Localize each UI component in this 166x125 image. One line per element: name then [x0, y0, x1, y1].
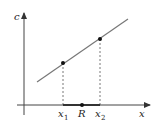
- svg-text:1: 1: [64, 114, 68, 122]
- point-x2: [98, 37, 102, 41]
- x-axis-label: x: [139, 108, 145, 119]
- label-r: R: [77, 108, 86, 119]
- label-x1: x 1: [58, 108, 68, 122]
- interval-point-r: [80, 103, 84, 107]
- point-x1: [61, 61, 65, 65]
- svg-text:2: 2: [101, 114, 105, 122]
- linear-function-line: [37, 19, 128, 82]
- diagram-canvas: c x x 1 R x 2: [0, 0, 166, 125]
- label-x2: x 2: [95, 108, 105, 122]
- y-axis-label: c: [14, 11, 20, 22]
